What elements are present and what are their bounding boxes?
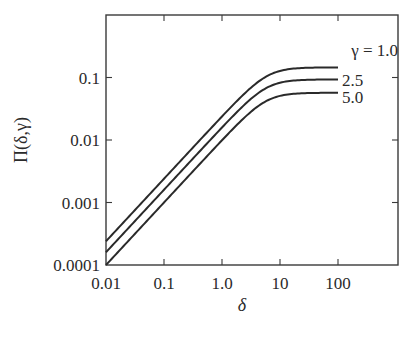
y-tick-label: 0.01 [70,131,100,150]
x-tick-label: 0.01 [91,274,121,293]
x-tick-label: 1.0 [211,274,232,293]
x-tick-label: 100 [325,274,351,293]
curve-gamma-2 [106,93,338,265]
x-tick-label: 0.1 [153,274,174,293]
y-axis-label: Π(δ,γ) [11,117,32,163]
chart: 0.010.11.010100 0.00010.0010.010.1 γ = 1… [0,0,411,339]
series-label: γ = 1.0 [350,41,398,60]
y-tick-label: 0.1 [79,69,100,88]
y-tick-label: 0.001 [62,194,100,213]
x-axis-label: δ [238,295,247,315]
chart-svg: 0.010.11.010100 0.00010.0010.010.1 γ = 1… [0,0,411,339]
series-labels: γ = 1.02.55.0 [342,41,398,107]
y-tick-label: 0.0001 [53,256,100,275]
x-tick-label: 10 [272,274,289,293]
x-axis-ticks: 0.010.11.010100 [91,15,351,293]
curves [106,67,338,265]
series-label: 5.0 [342,88,363,107]
